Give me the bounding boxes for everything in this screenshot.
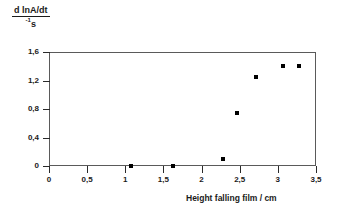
y-axis-tick-label: 1,6 — [5, 48, 39, 56]
x-axis-tick — [316, 166, 317, 173]
y-axis-title-denominator: -1s — [12, 17, 50, 29]
x-axis-tick-label: 1 — [110, 176, 140, 184]
y-axis-tick-label: 1,2 — [5, 77, 39, 85]
data-point — [221, 157, 225, 161]
data-point — [171, 164, 175, 168]
data-point — [281, 64, 285, 68]
y-axis-tick-label: 0 — [5, 162, 39, 170]
y-axis-title: d lnA/dt -1s — [12, 6, 50, 30]
x-axis-tick — [202, 166, 203, 173]
x-axis-tick-label: 2 — [187, 176, 217, 184]
x-axis-tick — [49, 166, 50, 173]
x-axis-tick — [240, 166, 241, 173]
y-axis-tick — [43, 138, 50, 139]
x-axis-tick-label: 1,5 — [148, 176, 178, 184]
x-axis-tick-label: 3 — [263, 176, 293, 184]
x-axis-title: Height falling film / cm — [186, 193, 277, 203]
x-axis-tick-label: 0,5 — [72, 176, 102, 184]
data-point — [129, 164, 133, 168]
y-axis-title-numerator: d lnA/dt — [12, 6, 50, 17]
x-axis-tick-label: 3,5 — [301, 176, 331, 184]
y-axis-tick — [43, 109, 50, 110]
plot-area — [49, 52, 316, 166]
y-axis-tick-label: 0,4 — [5, 134, 39, 142]
x-axis-tick-label: 2,5 — [225, 176, 255, 184]
data-point — [254, 75, 258, 79]
x-axis-tick — [163, 166, 164, 173]
x-axis-tick-label: 0 — [34, 176, 64, 184]
x-axis-tick — [278, 166, 279, 173]
y-axis-tick — [43, 52, 50, 53]
chart-figure: d lnA/dt -1s 00,40,81,21,600,511,522,533… — [0, 0, 337, 213]
data-point — [235, 111, 239, 115]
x-axis-tick — [125, 166, 126, 173]
y-axis-title-exponent: -1 — [26, 17, 31, 23]
y-axis-tick-label: 0,8 — [5, 105, 39, 113]
y-axis-title-unit: s — [31, 19, 36, 29]
x-axis-tick — [87, 166, 88, 173]
data-point — [297, 64, 301, 68]
y-axis-tick — [43, 81, 50, 82]
